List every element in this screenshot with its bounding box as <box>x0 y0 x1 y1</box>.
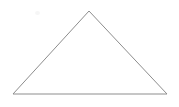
scan-speckle-artifact <box>35 11 40 15</box>
figure-canvas <box>0 0 179 107</box>
figure-background <box>0 0 179 107</box>
triangle-figure <box>0 0 179 107</box>
